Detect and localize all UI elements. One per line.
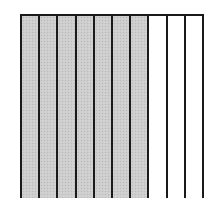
- shaded-strip: [111, 16, 129, 198]
- shaded-strip: [38, 16, 56, 198]
- shaded-strip: [20, 16, 38, 198]
- unshaded-strip: [147, 16, 165, 198]
- unshaded-strip: [166, 16, 184, 198]
- fraction-model-grid: [20, 14, 204, 198]
- shaded-strip: [93, 16, 111, 198]
- shaded-strip: [56, 16, 74, 198]
- unshaded-strip: [184, 16, 204, 198]
- shaded-strip: [129, 16, 147, 198]
- shaded-strip: [75, 16, 93, 198]
